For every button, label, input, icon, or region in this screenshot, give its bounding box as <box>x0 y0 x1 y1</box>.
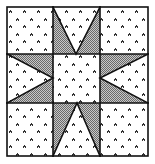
quilt-block <box>0 0 155 164</box>
block-background <box>7 7 148 156</box>
